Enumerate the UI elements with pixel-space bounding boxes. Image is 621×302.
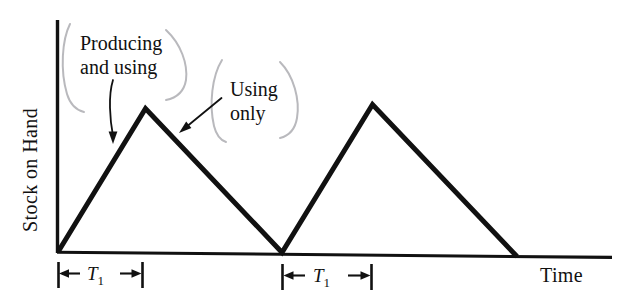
using-only-line2: only [230,102,266,125]
callout-using-only: Using only [179,60,298,142]
second-period-label: T1 [313,265,330,290]
x-axis-line [57,252,612,257]
producing-arrow-shaft [110,80,113,136]
first-period-subscript: 1 [98,273,105,288]
using-only-line1: Using [230,78,278,101]
y-axis-label: Stock on Hand [19,108,41,232]
figure-canvas: Stock on Hand Time Producing and using U… [0,0,621,302]
producing-bracket-right-icon [166,30,186,100]
second-period-subscript: 1 [324,275,331,290]
sawtooth-polyline [58,105,517,257]
inventory-sawtooth-figure: Stock on Hand Time Producing and using U… [0,0,621,302]
second-period-left-arrow-head-icon [284,271,294,279]
producing-and-using-line2: and using [80,56,157,79]
using-only-arrow-shaft [185,98,222,128]
stock-level-curve [58,105,517,257]
dimension-first-period: T1 [59,262,143,288]
first-period-right-arrow-head-icon [132,269,142,277]
dimension-second-period: T1 [283,264,372,290]
producing-and-using-line1: Producing [80,32,162,55]
producing-arrow-head-icon [109,132,118,145]
callout-producing-and-using: Producing and using [63,24,187,144]
first-period-label: T1 [87,263,104,288]
x-axis-label: Time [540,264,583,286]
first-period-left-arrow-head-icon [59,269,69,277]
using-only-bracket-right-icon [280,62,298,138]
second-period-right-arrow-head-icon [361,271,371,279]
